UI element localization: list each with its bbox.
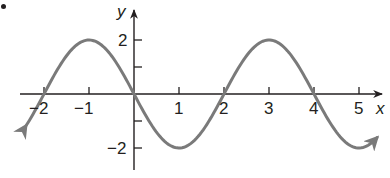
x-tick-label: 3 bbox=[264, 100, 273, 117]
y-tick-label-2: 2 bbox=[118, 32, 127, 49]
y-axis-label: y bbox=[117, 3, 126, 20]
x-tick-label: 4 bbox=[309, 100, 318, 117]
y-tick-label-neg2: −2 bbox=[107, 140, 126, 157]
sine-graph bbox=[0, 0, 390, 178]
x-tick-label: 5 bbox=[354, 100, 363, 117]
x-tick-label: −2 bbox=[29, 100, 48, 117]
x-tick-label: −1 bbox=[74, 100, 93, 117]
x-axis-label: x bbox=[376, 100, 385, 117]
x-tick-label: 1 bbox=[174, 100, 183, 117]
x-tick-label: 2 bbox=[219, 100, 228, 117]
